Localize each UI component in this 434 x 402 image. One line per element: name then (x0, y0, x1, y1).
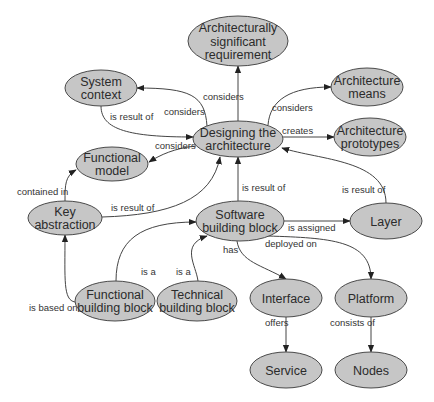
node-key-abstraction: Keyabstraction (28, 201, 102, 235)
edge-designing-to-arch-means: considers (268, 87, 331, 125)
node-label: Functional (83, 151, 141, 165)
node-platform: Platform (335, 279, 407, 317)
node-functional-bb: Functionalbuilding block (75, 281, 155, 321)
node-service: Service (250, 352, 322, 388)
nodes-layer: ArchitecturallysignificantrequirementSys… (28, 16, 422, 388)
edge-designing-to-arch-prototypes: creates (282, 125, 334, 137)
node-label: Nodes (353, 364, 389, 378)
node-label: Architecture (337, 124, 404, 138)
edge-line (191, 236, 207, 281)
edge-label: is result of (111, 202, 155, 213)
node-label: Platform (348, 292, 395, 306)
node-label: prototypes (341, 137, 399, 151)
edge-label: is assigned (288, 222, 336, 233)
node-label: Functional (86, 288, 144, 302)
edge-label: considers (203, 91, 244, 102)
edge-label: considers (164, 106, 205, 117)
node-label: Layer (370, 215, 401, 229)
edge-functional-bb-to-key-abstraction: is based on (29, 235, 78, 313)
node-nodes: Nodes (335, 352, 407, 388)
edge-label: is result of (342, 184, 386, 195)
node-label: building block (77, 301, 153, 315)
edge-line (65, 235, 75, 302)
node-label: architecture (205, 139, 270, 153)
node-label: abstraction (34, 218, 95, 232)
edge-software-bb-to-designing: is result of (238, 157, 286, 201)
edge-platform-to-nodes: consists of (330, 317, 375, 352)
node-label: Technical (171, 288, 223, 302)
node-label: Architecturally (199, 21, 278, 35)
node-label: requirement (205, 48, 272, 62)
node-label: building block (159, 301, 235, 315)
node-functional-model: Functionalmodel (76, 147, 148, 181)
node-label: Interface (262, 292, 311, 306)
edge-label: is result of (242, 182, 286, 193)
node-interface: Interface (250, 279, 322, 317)
edge-label: offers (265, 317, 289, 328)
node-label: means (348, 87, 386, 101)
edge-designing-to-asr: considers (203, 66, 244, 121)
edge-key-abstraction-to-functional-model: contained in (17, 170, 76, 201)
edge-label: is based on (29, 302, 78, 313)
node-label: Software (215, 208, 264, 222)
edge-interface-to-service: offers (265, 317, 289, 352)
edge-label: considers (155, 140, 196, 151)
node-label: Service (265, 364, 307, 378)
diagram-canvas: considersconsidersis result ofconsidersc… (0, 0, 434, 402)
node-system-context: Systemcontext (65, 70, 137, 106)
edge-label: has (223, 244, 239, 255)
node-technical-bb: Technicalbuilding block (157, 281, 237, 321)
node-software-bb: Softwarebuilding block (196, 201, 284, 241)
edge-label: is result of (110, 111, 154, 122)
edge-label: considers (272, 102, 313, 113)
edge-label: creates (282, 125, 313, 136)
node-layer: Layer (350, 203, 422, 239)
node-arch-prototypes: Architectureprototypes (334, 118, 406, 156)
node-label: System (80, 75, 122, 89)
node-label: significant (210, 35, 266, 49)
edge-designing-to-functional-model: considers (149, 140, 196, 162)
edge-software-bb-to-layer: is assigned (284, 221, 350, 233)
node-designing: Designing thearchitecture (193, 121, 283, 157)
edge-label: deployed on (265, 238, 317, 249)
edge-label: is a (141, 266, 157, 277)
node-label: model (95, 164, 129, 178)
node-label: context (81, 88, 122, 102)
node-label: Architecture (334, 74, 401, 88)
node-label: Designing the (200, 126, 276, 140)
edge-label: contained in (17, 186, 68, 197)
node-asr: Architecturallysignificantrequirement (188, 16, 288, 66)
edge-software-bb-to-platform: deployed on (265, 236, 371, 279)
node-label: Key (54, 205, 76, 219)
edge-label: consists of (330, 317, 375, 328)
edge-label: is a (176, 266, 192, 277)
node-label: building block (202, 221, 278, 235)
node-arch-means: Architecturemeans (331, 68, 403, 106)
concept-map-diagram: considersconsidersis result ofconsidersc… (0, 0, 434, 402)
edge-technical-bb-to-software-bb: is a (176, 236, 207, 281)
